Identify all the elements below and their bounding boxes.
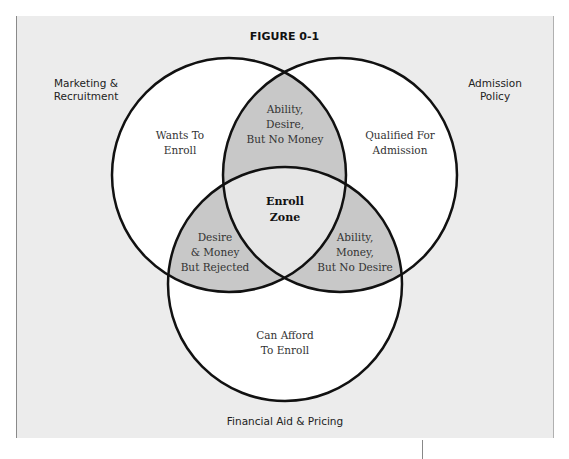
region-desire-money-rejected: Desire & Money But Rejected: [165, 230, 265, 275]
region-qualified-for-admission: Qualified For Admission: [345, 128, 455, 158]
region-can-afford-to-enroll: Can Afford To Enroll: [235, 328, 335, 358]
region-wants-to-enroll: Wants To Enroll: [130, 128, 230, 158]
figure-title: FIGURE 0-1: [0, 30, 569, 43]
set-label-marketing: Marketing & Recruitment: [46, 77, 126, 103]
region-enroll-zone: Enroll Zone: [245, 194, 325, 226]
venn-diagram: [0, 0, 569, 459]
set-label-financial: Financial Aid & Pricing: [185, 415, 385, 428]
region-ability-money-no-desire: Ability, Money, But No Desire: [305, 230, 405, 275]
set-label-admission: Admission Policy: [460, 77, 530, 103]
region-ability-desire-no-money: Ability, Desire, But No Money: [235, 102, 335, 147]
